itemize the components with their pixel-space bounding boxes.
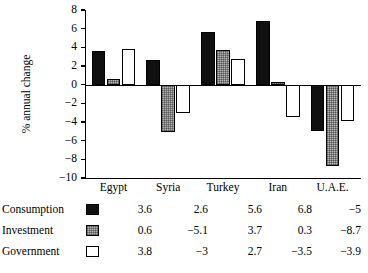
legend-value: 2.6 <box>194 203 208 215</box>
legend-value: 0.3 <box>298 224 312 236</box>
y-tick-mark <box>81 47 85 48</box>
legend-value: −5.1 <box>187 224 208 236</box>
y-tick-mark <box>81 140 85 141</box>
y-tick-label: −2 <box>65 97 77 109</box>
legend-value: 3.6 <box>138 203 152 215</box>
y-tick-label: 6 <box>71 23 77 35</box>
legend-table: Consumption3.62.65.66.8−5Investment0.6−5… <box>0 200 368 263</box>
bar-turkey-consumption <box>201 32 215 84</box>
legend-value: −3.5 <box>291 245 312 257</box>
bar-egypt-investment <box>107 79 121 85</box>
legend-value: 3.8 <box>138 245 152 257</box>
legend-swatch-investment <box>86 225 99 236</box>
legend-label-government: Government <box>2 245 59 257</box>
legend-label-consumption: Consumption <box>2 203 64 215</box>
y-tick-mark <box>81 9 85 10</box>
y-tick-label: −4 <box>65 116 77 128</box>
bar-uae-consumption <box>311 85 325 132</box>
bar-egypt-consumption <box>92 51 106 85</box>
bar-syria-government <box>176 85 190 113</box>
legend-row: Investment0.6−5.13.70.3−8.7 <box>0 221 368 242</box>
legend-value: 0.6 <box>138 224 152 236</box>
legend-label-investment: Investment <box>2 224 53 236</box>
y-axis-title: % annual change <box>20 39 32 149</box>
y-tick-mark <box>81 103 85 104</box>
y-tick-mark <box>81 159 85 160</box>
bar-iran-consumption <box>256 21 270 84</box>
bar-syria-investment <box>161 85 175 133</box>
y-tick-mark <box>81 65 85 66</box>
y-tick-mark <box>81 28 85 29</box>
y-tick-mark <box>81 177 85 178</box>
bar-chart: % annual change 86420−2−4−6−8−10 EgyptSy… <box>0 0 368 196</box>
y-tick-label: 4 <box>71 41 77 53</box>
y-tick-label: −6 <box>65 135 77 147</box>
legend-value: −3 <box>196 245 208 257</box>
legend-value: −5 <box>349 203 361 215</box>
y-tick-mark <box>81 121 85 122</box>
legend-value: 2.7 <box>248 245 262 257</box>
bar-turkey-investment <box>216 50 230 85</box>
y-tick-mark <box>81 84 85 85</box>
legend-value: 5.6 <box>248 203 262 215</box>
y-tick-label: 2 <box>71 60 77 72</box>
legend-value: −8.7 <box>340 224 361 236</box>
x-axis-line <box>85 178 361 179</box>
legend-row: Consumption3.62.65.66.8−5 <box>0 200 368 221</box>
legend-row: Government3.8−32.7−3.5−3.9 <box>0 242 368 263</box>
plot-area <box>86 10 360 178</box>
y-tick-label: 0 <box>71 79 77 91</box>
legend-swatch-consumption <box>86 204 99 215</box>
bar-iran-investment <box>271 82 285 85</box>
legend-value: 3.7 <box>248 224 262 236</box>
bar-uae-government <box>341 85 355 121</box>
y-tick-label: 8 <box>71 4 77 16</box>
legend-swatch-government <box>86 246 99 257</box>
bar-syria-consumption <box>146 60 160 84</box>
bar-iran-government <box>286 85 300 118</box>
bar-turkey-government <box>231 59 245 84</box>
y-tick-label: −8 <box>65 153 77 165</box>
legend-value: 6.8 <box>298 203 312 215</box>
bar-uae-investment <box>326 85 340 166</box>
x-label-uae: U.A.E. <box>293 181 368 193</box>
legend-value: −3.9 <box>340 245 361 257</box>
bar-egypt-government <box>122 49 136 84</box>
